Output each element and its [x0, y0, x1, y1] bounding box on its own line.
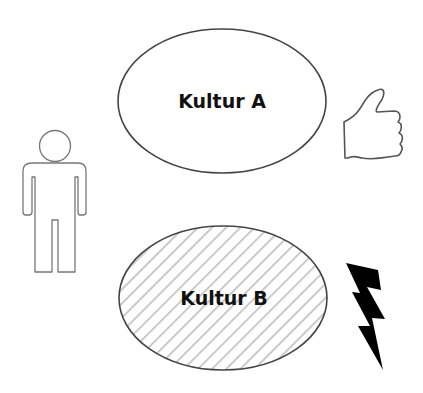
lightning-bolt-icon	[346, 263, 385, 370]
thumbs-up-icon	[344, 89, 402, 159]
culture-b-label: Kultur B	[180, 287, 268, 309]
person-outline-icon	[23, 131, 86, 273]
diagram-canvas	[0, 0, 423, 393]
culture-a-label: Kultur A	[178, 90, 266, 112]
